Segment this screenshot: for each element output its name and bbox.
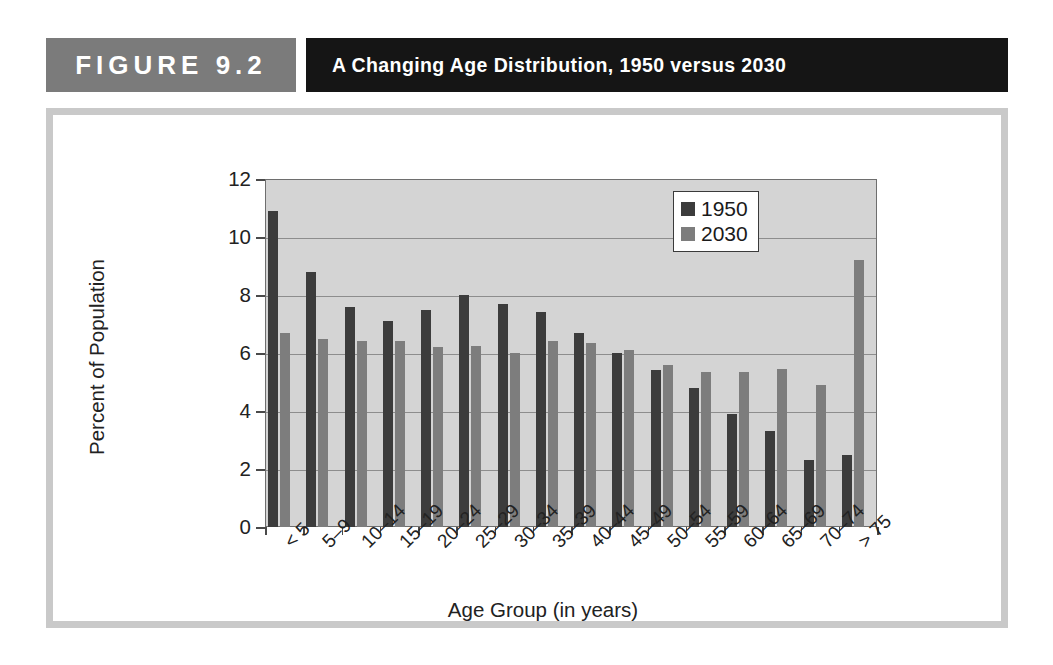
legend-swatch-icon [681,227,695,241]
bar-group [571,179,609,527]
figure-number-label: FIGURE 9.2 [46,38,296,92]
bar-group [456,179,494,527]
figure-panel: Percent of Population 024681012 < 55–910… [46,108,1008,628]
y-axis-title: Percent of Population [85,207,109,507]
bar-1950 [268,211,278,527]
y-tick-mark [256,411,265,413]
bar-1950 [421,310,431,528]
bar-1950 [536,312,546,527]
y-tick-mark [256,353,265,355]
y-tick-label: 10 [205,225,251,249]
figure-header: FIGURE 9.2 A Changing Age Distribution, … [46,38,1008,92]
y-tick-label: 8 [205,283,251,307]
bar-group [265,179,303,527]
bar-group [495,179,533,527]
bar-group [303,179,341,527]
bar-1950 [306,272,316,527]
bar-2030 [280,333,290,527]
y-tick-mark [256,295,265,297]
bar-1950 [383,321,393,527]
bar-2030 [357,341,367,527]
bar-2030 [471,346,481,527]
bars-layer [265,179,877,527]
bar-group [418,179,456,527]
legend-item: 1950 [681,196,748,221]
bar-group [839,179,877,527]
bar-2030 [586,343,596,527]
legend-item: 2030 [681,221,748,246]
y-tick-label: 0 [205,515,251,539]
x-axis-title: Age Group (in years) [263,598,823,622]
y-tick-label: 4 [205,399,251,423]
x-tick-mark [265,527,267,535]
bar-2030 [510,353,520,527]
legend-label: 1950 [701,198,748,219]
bar-chart: Percent of Population 024681012 < 55–910… [53,115,1015,635]
y-tick-label: 6 [205,341,251,365]
legend-swatch-icon [681,202,695,216]
bar-1950 [574,333,584,527]
bar-1950 [345,307,355,527]
figure-title: A Changing Age Distribution, 1950 versus… [306,38,1008,92]
y-tick-mark [256,527,265,529]
y-tick-label: 2 [205,457,251,481]
bar-2030 [318,339,328,528]
bar-2030 [395,341,405,527]
bar-group [342,179,380,527]
figure-page: { "header": { "figure_label": "FIGURE 9.… [0,0,1053,665]
bar-group [762,179,800,527]
y-tick-mark [256,469,265,471]
bar-group [801,179,839,527]
y-tick-mark [256,237,265,239]
chart-legend: 19502030 [673,191,759,252]
bar-2030 [854,260,864,527]
bar-2030 [624,350,634,527]
bar-group [533,179,571,527]
bar-group [380,179,418,527]
bar-1950 [498,304,508,527]
bar-group [609,179,647,527]
bar-2030 [548,341,558,527]
bar-2030 [433,347,443,527]
y-tick-label: 12 [205,167,251,191]
bar-1950 [459,295,469,527]
y-tick-mark [256,179,265,181]
legend-label: 2030 [701,223,748,244]
